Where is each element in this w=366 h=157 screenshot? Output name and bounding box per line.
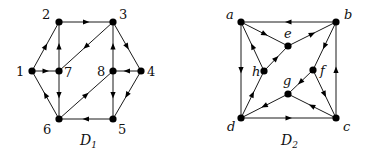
- arrowhead-icon: [285, 19, 292, 24]
- edge-h-to-e: [264, 46, 288, 71]
- vertex-dot: [109, 67, 116, 74]
- vertex-label: a: [226, 7, 234, 22]
- vertex-dot: [237, 114, 244, 121]
- edge-6-to-1: [32, 71, 59, 119]
- arrowhead-icon: [110, 92, 115, 99]
- vertex-7: 7: [55, 65, 72, 80]
- arrowhead-icon: [238, 67, 243, 74]
- vertex-dot: [55, 115, 62, 122]
- vertex-dot: [332, 114, 339, 121]
- edge-5-to-6: [59, 116, 113, 121]
- vertex-a: a: [226, 7, 245, 26]
- vertex-label: 4: [147, 64, 155, 79]
- arrowhead-icon: [83, 116, 90, 121]
- vertex-label: c: [343, 119, 351, 134]
- vertex-6: 6: [43, 115, 63, 137]
- vertex-label: b: [344, 7, 352, 22]
- arrowhead-icon: [123, 43, 131, 51]
- edge-c-to-b: [333, 22, 338, 118]
- arrowhead-icon: [110, 43, 115, 50]
- vertex-2: 2: [42, 7, 63, 26]
- arrowhead-icon: [56, 43, 61, 50]
- vertex-dot: [260, 67, 267, 74]
- vertex-dot: [55, 67, 62, 74]
- vertex-label: d: [227, 119, 235, 134]
- arrowhead-icon: [56, 92, 61, 99]
- vertex-label: 5: [118, 122, 126, 137]
- arrowhead-icon: [321, 90, 328, 98]
- vertex-dot: [237, 18, 244, 25]
- edge-4-to-5: [113, 71, 141, 119]
- vertex-g: g: [283, 73, 292, 98]
- vertex-label: 2: [42, 7, 50, 22]
- arrowhead-icon: [261, 30, 269, 38]
- vertex-dot: [109, 115, 116, 122]
- vertex-label: 6: [43, 122, 51, 137]
- vertex-dot: [109, 18, 116, 25]
- vertex-h: h: [252, 64, 268, 79]
- edge-7-to-6: [56, 71, 61, 119]
- arrowhead-icon: [249, 42, 256, 50]
- arrowhead-icon: [42, 42, 50, 50]
- edge-b-to-a: [241, 19, 336, 24]
- arrowhead-icon: [260, 102, 268, 110]
- vertex-e: e: [284, 26, 292, 50]
- edge-7-to-2: [56, 22, 61, 71]
- vertex-label: 1: [16, 64, 24, 79]
- vertex-label: 8: [97, 64, 105, 79]
- vertex-dot: [137, 67, 144, 74]
- arrowhead-icon: [286, 115, 293, 120]
- arrowhead-icon: [43, 68, 50, 73]
- vertex-label: 3: [119, 7, 127, 22]
- arrowhead-icon: [124, 68, 131, 73]
- vertex-1: 1: [16, 64, 36, 79]
- vertex-label: 7: [64, 65, 72, 80]
- digraph-d2: abcdefghD2: [226, 7, 352, 150]
- vertex-4: 4: [137, 64, 155, 79]
- edge-f-to-g: [288, 70, 313, 94]
- edge-a-to-d: [238, 22, 243, 118]
- vertex-dot: [284, 90, 291, 97]
- arrowhead-icon: [83, 19, 90, 24]
- vertex-label: f: [319, 63, 327, 78]
- vertex-dot: [55, 18, 62, 25]
- arrowhead-icon: [321, 42, 328, 50]
- vertex-c: c: [332, 114, 351, 134]
- digraph-d1: 12345678D1: [16, 7, 155, 150]
- vertex-3: 3: [109, 7, 127, 26]
- edge-a-to-e: [241, 22, 288, 46]
- arrowhead-icon: [123, 91, 131, 99]
- edge-c-to-g: [288, 94, 336, 118]
- vertex-f: f: [309, 63, 327, 78]
- edge-d-to-c: [241, 115, 336, 120]
- vertex-5: 5: [109, 115, 126, 137]
- edge-2-to-3: [59, 19, 113, 24]
- vertex-label: g: [283, 73, 291, 88]
- vertex-dot: [28, 67, 35, 74]
- vertex-dot: [332, 18, 339, 25]
- edge-e-to-b: [288, 22, 336, 46]
- diagram-caption: D1: [79, 132, 97, 150]
- edge-1-to-2: [32, 22, 59, 71]
- arrowhead-icon: [42, 91, 50, 99]
- edge-8-to-5: [110, 71, 115, 119]
- arrowhead-icon: [249, 90, 257, 98]
- edge-3-to-4: [113, 22, 141, 71]
- arrowhead-icon: [333, 67, 338, 74]
- edge-8-to-3: [110, 22, 115, 71]
- diagram-caption: D2: [280, 132, 298, 150]
- vertex-dot: [284, 42, 291, 49]
- vertex-d: d: [227, 114, 245, 134]
- vertex-label: h: [252, 64, 260, 79]
- vertex-dot: [309, 66, 316, 73]
- edge-1-to-7: [32, 68, 59, 73]
- arrowhead-icon: [308, 30, 316, 38]
- arrowhead-icon: [308, 102, 316, 110]
- edge-4-to-8: [113, 68, 141, 73]
- vertex-b: b: [332, 7, 352, 26]
- digraph-canvas: 12345678D1 abcdefghD2: [0, 0, 366, 157]
- edge-g-to-d: [241, 94, 288, 118]
- vertex-label: e: [284, 26, 292, 41]
